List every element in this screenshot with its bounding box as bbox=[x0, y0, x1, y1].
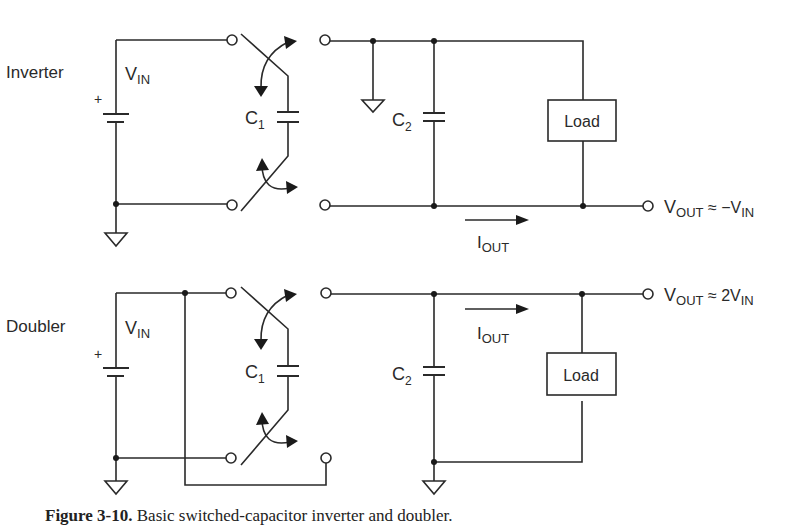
switch-terminal bbox=[227, 35, 237, 45]
arrowhead-icon bbox=[286, 181, 298, 194]
junction-dot bbox=[431, 203, 437, 209]
figure-caption-text: Basic switched-capacitor inverter and do… bbox=[137, 506, 453, 525]
output-terminal bbox=[320, 200, 330, 210]
inverter-iout-label: IOUT bbox=[477, 233, 509, 255]
arrowhead-icon bbox=[254, 339, 268, 350]
vout-terminal bbox=[643, 201, 653, 211]
output-terminal bbox=[321, 288, 331, 298]
doubler-c1-label: C1 bbox=[245, 362, 265, 386]
doubler-load-label: Load bbox=[563, 367, 599, 384]
doubler-plus-sign: + bbox=[94, 346, 102, 362]
doubler-c2-label: C2 bbox=[392, 364, 412, 388]
junction-dot bbox=[431, 459, 437, 465]
junction-dot bbox=[370, 38, 376, 44]
switch-motion-arrow-icon bbox=[261, 295, 288, 341]
doubler-circuit: Doubler VIN + C1 C2 Load bbox=[6, 285, 754, 494]
inverter-title: Inverter bbox=[6, 63, 64, 82]
switch-terminal bbox=[226, 288, 236, 298]
arrowhead-icon bbox=[284, 289, 297, 302]
inverter-circuit: Inverter VIN + C1 C2 bbox=[6, 34, 754, 255]
doubler-input-wires bbox=[116, 293, 326, 485]
inverter-c1-label: C1 bbox=[245, 108, 265, 132]
inverter-plus-sign: + bbox=[94, 91, 102, 107]
inverter-load-label: Load bbox=[564, 113, 600, 130]
arrowhead-icon bbox=[516, 304, 529, 314]
junction-dot bbox=[580, 203, 586, 209]
switch-terminal bbox=[227, 200, 237, 210]
doubler-title: Doubler bbox=[6, 317, 66, 336]
return-terminal bbox=[321, 453, 331, 463]
arrowhead-icon bbox=[516, 215, 529, 225]
inverter-vin-label: VIN bbox=[125, 64, 150, 87]
arrowhead-icon bbox=[286, 435, 298, 448]
arrowhead-icon bbox=[284, 36, 297, 49]
ground-icon bbox=[105, 233, 127, 246]
doubler-iout-label: IOUT bbox=[477, 324, 509, 346]
inverter-c2-label: C2 bbox=[392, 110, 412, 134]
doubler-vin-label: VIN bbox=[125, 318, 150, 341]
junction-dot bbox=[579, 291, 585, 297]
junction-dot bbox=[113, 455, 119, 461]
output-terminal bbox=[320, 35, 330, 45]
ground-icon bbox=[423, 481, 445, 494]
arrowhead-icon bbox=[254, 86, 268, 97]
doubler-vout-label: VOUT ≈ 2VIN bbox=[664, 285, 754, 308]
figure-number: Figure 3-10. bbox=[45, 506, 133, 525]
junction-dot bbox=[182, 290, 188, 296]
junction-dot bbox=[113, 201, 119, 207]
switch-terminal bbox=[226, 453, 236, 463]
inverter-vout-label: VOUT ≈ −VIN bbox=[664, 197, 754, 220]
junction-dot bbox=[431, 38, 437, 44]
vout-terminal bbox=[643, 289, 653, 299]
ground-icon bbox=[105, 481, 127, 494]
switch-motion-arrow-icon bbox=[261, 42, 288, 88]
arrowhead-icon bbox=[256, 412, 269, 425]
figure-caption: Figure 3-10. Basic switched-capacitor in… bbox=[45, 506, 453, 526]
ground-icon bbox=[362, 100, 384, 112]
arrowhead-icon bbox=[256, 158, 269, 171]
junction-dot bbox=[431, 291, 437, 297]
